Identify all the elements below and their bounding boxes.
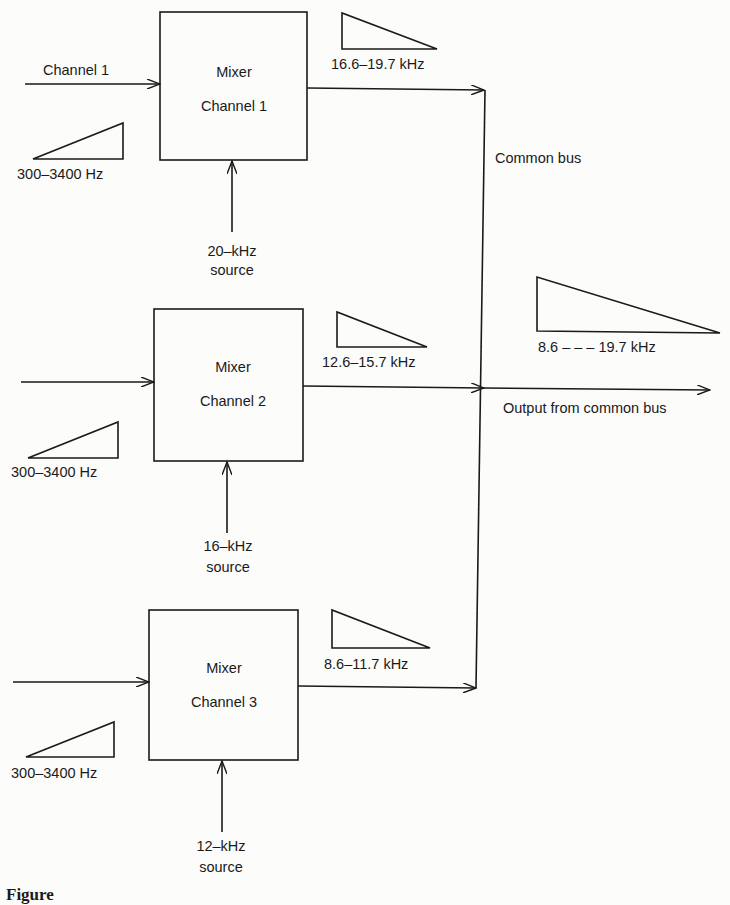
output-spectrum-label-2: 12.6–15.7 kHz — [322, 354, 416, 370]
mixer-title-1: Mixer — [216, 64, 251, 80]
output-arrow-2 — [303, 386, 484, 388]
mixer-channel-3: Channel 3 — [191, 694, 257, 710]
output-arrow-bus — [482, 388, 710, 390]
common-bus-label: Common bus — [495, 150, 581, 166]
carrier-source-label-3: source — [199, 859, 243, 875]
carrier-source-label-1: source — [210, 262, 254, 278]
output-arrow-1 — [307, 88, 484, 90]
input-spectrum-icon-2 — [28, 422, 118, 458]
mixer-channel-1: Channel 1 — [201, 98, 267, 114]
input-spectrum-label-2: 300–3400 Hz — [11, 464, 97, 480]
output-spectrum-label: 8.6 – – – 19.7 kHz — [538, 339, 656, 355]
output-spectrum-icon-3 — [332, 610, 430, 648]
output-spectrum-label-3: 8.6–11.7 kHz — [324, 656, 408, 672]
input-spectrum-icon-1 — [33, 123, 123, 159]
mixer-title-3: Mixer — [206, 660, 241, 676]
mixer-title-2: Mixer — [215, 359, 250, 375]
input-spectrum-icon-3 — [26, 722, 114, 757]
input-spectrum-label-1: 300–3400 Hz — [17, 166, 103, 182]
output-spectrum-icon-1 — [342, 13, 437, 49]
carrier-label-1: 20–kHz — [207, 243, 256, 259]
carrier-label-3: 12–kHz — [196, 838, 245, 854]
output-arrow-3 — [298, 686, 476, 688]
output-label: Output from common bus — [503, 400, 667, 416]
input-channel-label: Channel 1 — [43, 62, 109, 78]
mixer-box-1 — [160, 12, 307, 160]
carrier-source-label-2: source — [206, 559, 250, 575]
output-spectrum-icon — [537, 277, 720, 333]
carrier-label-2: 16–kHz — [203, 538, 252, 554]
output-spectrum-icon-2 — [337, 312, 427, 347]
common-bus-line — [476, 90, 485, 688]
mixer-box-3 — [149, 610, 298, 760]
mixer-channel-2: Channel 2 — [200, 393, 266, 409]
output-spectrum-label-1: 16.6–19.7 kHz — [331, 56, 425, 72]
figure-caption: Figure — [6, 885, 54, 905]
mixer-box-2 — [154, 309, 303, 461]
input-spectrum-label-3: 300–3400 Hz — [11, 765, 97, 781]
